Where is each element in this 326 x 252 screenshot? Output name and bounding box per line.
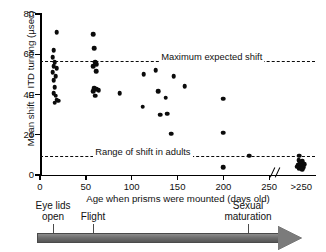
data-point — [51, 55, 56, 60]
data-point — [300, 167, 305, 172]
plot-area: Maximum expected shiftRange of shift in … — [40, 14, 315, 175]
data-point — [96, 88, 101, 93]
data-point — [91, 32, 96, 37]
x-tick-label-200: 200 — [215, 182, 231, 192]
timeline-tick-sexual-maturation — [248, 224, 249, 233]
data-point — [92, 46, 97, 51]
data-point — [294, 164, 299, 169]
data-point — [141, 72, 146, 77]
data-point — [52, 100, 57, 105]
timeline-label-eye-lids-open: Eye lids — [35, 200, 70, 212]
data-point — [221, 96, 226, 101]
y-tick-label-60: 60 — [23, 49, 34, 59]
timeline-label-flight: Flight — [81, 211, 105, 223]
data-point — [183, 84, 188, 89]
timeline-tick-eye-lids-open — [53, 224, 54, 233]
x-tick-label-250: 250 — [261, 182, 277, 192]
data-point — [169, 131, 174, 136]
developmental-timeline: Eye lidsopenFlightSexualmaturation — [0, 200, 326, 252]
timeline-bar — [37, 233, 280, 243]
data-point — [93, 93, 98, 98]
data-point — [163, 95, 168, 100]
data-point — [165, 111, 170, 116]
x-tick-200 — [223, 175, 224, 180]
data-point — [51, 78, 56, 83]
x-tick-label->250: >250 — [291, 182, 312, 192]
x-tick-50 — [85, 175, 86, 180]
y-tick-label-80: 80 — [23, 9, 34, 19]
y-tick-label-40: 40 — [23, 90, 34, 100]
data-point — [172, 74, 177, 79]
x-tick-label-150: 150 — [170, 182, 186, 192]
data-point — [140, 104, 145, 109]
y-tick-label-0: 0 — [29, 170, 34, 180]
data-point — [221, 165, 226, 170]
data-point — [94, 69, 99, 74]
reference-label-range-of-shift-in-adults: Range of shift in adults — [93, 147, 192, 157]
timeline-label-sexual-maturation-line2: maturation — [224, 211, 271, 223]
timeline-label-eye-lids-open-line2: open — [42, 211, 64, 223]
x-tick-label-100: 100 — [124, 182, 140, 192]
data-point — [117, 91, 122, 96]
reference-label-maximum-expected-shift: Maximum expected shift — [159, 52, 264, 62]
data-point — [153, 68, 158, 73]
x-tick-label-0: 0 — [37, 182, 42, 192]
timeline-arrow-icon — [278, 226, 302, 250]
y-tick-label-20: 20 — [23, 130, 34, 140]
data-point — [54, 30, 59, 35]
data-point — [91, 64, 96, 69]
x-tick-150 — [177, 175, 178, 180]
x-tick-100 — [131, 175, 132, 180]
timeline-tick-flight — [93, 224, 94, 233]
x-tick-label-50: 50 — [81, 182, 92, 192]
x-tick-0 — [39, 175, 40, 180]
figure-root: Mean shift in ITD turning (µsec) Age whe… — [0, 0, 326, 252]
data-point — [52, 85, 57, 90]
data-point — [221, 130, 226, 135]
timeline-label-sexual-maturation: Sexual — [233, 200, 264, 212]
data-point — [51, 48, 56, 53]
data-point — [156, 89, 161, 94]
data-point — [158, 112, 163, 117]
